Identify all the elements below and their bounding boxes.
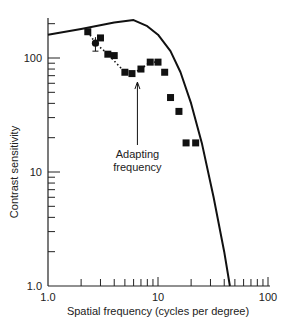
data-point	[111, 52, 118, 59]
data-markers	[84, 28, 199, 146]
data-point	[121, 69, 128, 76]
data-point	[192, 139, 199, 146]
x-tick-label: 10	[152, 291, 164, 303]
data-point	[128, 70, 135, 77]
y-tick-label: 10	[30, 166, 42, 178]
y-axis-label: Contrast sensitivity	[8, 125, 20, 218]
data-point	[147, 59, 154, 66]
x-tick-label: 1.0	[40, 291, 55, 303]
x-axis-label: Spatial frequency (cycles per degree)	[67, 305, 249, 317]
data-point	[104, 51, 111, 58]
data-point	[97, 34, 104, 41]
data-point	[183, 139, 190, 146]
data-point	[155, 59, 162, 66]
y-tick-label: 100	[24, 52, 42, 64]
data-point	[167, 94, 174, 101]
data-point	[84, 28, 91, 35]
annotation-text: Adapting	[116, 148, 159, 160]
x-tick-label: 100	[259, 291, 277, 303]
annotation-adapting-frequency: Adaptingfrequency	[113, 82, 162, 173]
annotation-text: frequency	[113, 161, 162, 173]
data-point	[175, 108, 182, 115]
chart: 1.0101001.010100 Contrast sensitivity Sp…	[0, 0, 283, 329]
data-point	[137, 66, 144, 73]
data-point	[161, 69, 168, 76]
